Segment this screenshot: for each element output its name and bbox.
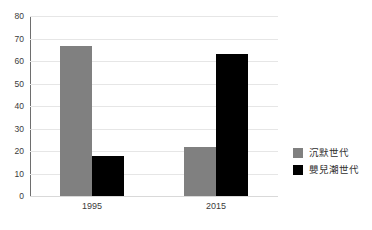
bar-group [30, 16, 154, 196]
y-axis-tick-label: 50 [15, 79, 30, 88]
x-axis-tick-label: 2015 [206, 202, 226, 211]
bars-layer [30, 16, 278, 196]
x-axis-tick-label: 1995 [82, 202, 102, 211]
y-axis-tick-label: 10 [15, 169, 30, 178]
legend-label: 沉默世代 [309, 148, 349, 158]
bar [92, 156, 124, 197]
bar [60, 46, 92, 196]
y-axis-tick-label: 40 [15, 102, 30, 111]
y-axis-tick-label: 70 [15, 34, 30, 43]
y-axis-tick-label: 0 [19, 192, 30, 201]
bar-chart: 80706050403020100 19952015 沉默世代嬰兒潮世代 [0, 0, 372, 230]
legend: 沉默世代嬰兒潮世代 [293, 148, 359, 175]
x-axis-labels: 19952015 [30, 202, 278, 218]
legend-item[interactable]: 嬰兒潮世代 [293, 165, 359, 175]
legend-swatch [293, 165, 303, 175]
legend-swatch [293, 148, 303, 158]
bar-group [154, 16, 278, 196]
bar [184, 147, 216, 197]
y-axis-tick-label: 80 [15, 12, 30, 21]
y-axis-tick-label: 30 [15, 124, 30, 133]
bar [216, 54, 248, 196]
y-axis-tick-label: 20 [15, 147, 30, 156]
y-axis-tick-label: 60 [15, 57, 30, 66]
gridline [30, 196, 278, 197]
legend-item[interactable]: 沉默世代 [293, 148, 359, 158]
legend-label: 嬰兒潮世代 [309, 165, 359, 175]
plot-area: 80706050403020100 [30, 16, 278, 196]
